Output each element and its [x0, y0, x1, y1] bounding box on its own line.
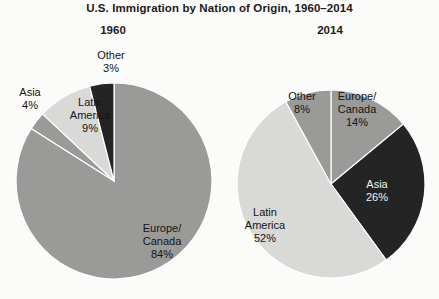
slice-label-2014-europe-canada-line1: Europe/	[326, 90, 388, 103]
slice-label-2014-europe-canada: Europe/ Canada 14%	[326, 90, 388, 130]
slice-label-2014-europe-canada-value: 14%	[326, 116, 388, 129]
slice-label-2014-latin-america: Latin America 52%	[232, 206, 298, 246]
slice-label-2014-latin-america-value: 52%	[232, 232, 298, 245]
slice-label-1960-europe-canada-line2: Canada	[127, 235, 197, 248]
slice-label-2014-other-value: 8%	[279, 103, 325, 116]
slice-label-1960-europe-canada-line1: Europe/	[127, 222, 197, 235]
slice-label-1960-latin-america-line2: America	[57, 109, 123, 122]
immigration-pie-figure: U.S. Immigration by Nation of Origin, 19…	[0, 0, 439, 299]
slice-label-1960-asia-name: Asia	[6, 86, 54, 99]
slice-label-1960-latin-america-line1: Latin	[57, 96, 123, 109]
slice-label-1960-latin-america: Latin America 9%	[57, 96, 123, 136]
slice-label-1960-latin-america-value: 9%	[57, 122, 123, 135]
slice-label-2014-latin-america-line1: Latin	[232, 206, 298, 219]
slice-label-1960-other-value: 3%	[80, 62, 142, 75]
slice-label-1960-other-name: Other	[80, 49, 142, 62]
slice-label-1960-asia-value: 4%	[6, 99, 54, 112]
slice-label-1960-other: Other 3%	[80, 49, 142, 75]
pie-chart-canvas	[0, 0, 439, 299]
slice-label-2014-other-name: Other	[279, 90, 325, 103]
slice-label-2014-latin-america-line2: America	[232, 219, 298, 232]
slice-label-2014-asia: Asia 26%	[353, 178, 401, 204]
slice-label-1960-europe-canada: Europe/ Canada 84%	[127, 222, 197, 262]
slice-label-1960-asia: Asia 4%	[6, 86, 54, 112]
slice-label-2014-asia-value: 26%	[353, 191, 401, 204]
slice-label-2014-other: Other 8%	[279, 90, 325, 116]
slice-label-1960-europe-canada-value: 84%	[127, 248, 197, 261]
slice-label-2014-europe-canada-line2: Canada	[326, 103, 388, 116]
slice-label-2014-asia-name: Asia	[353, 178, 401, 191]
